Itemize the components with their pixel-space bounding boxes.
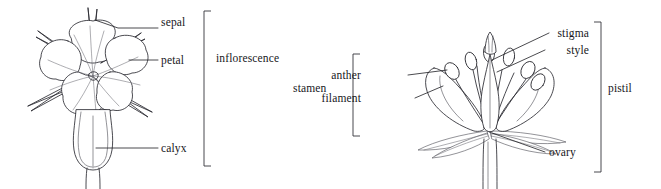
left-flower-drawing: [28, 8, 152, 189]
label-anther: anther: [286, 69, 361, 81]
label-petal: petal: [161, 54, 184, 66]
left-petals: [40, 20, 148, 114]
label-inflorescence: inflorescence: [216, 52, 279, 64]
label-calyx: calyx: [161, 142, 187, 154]
inflorescence-bracket: [204, 11, 211, 166]
label-sepal: sepal: [161, 16, 185, 28]
label-ovary: ovary: [549, 146, 576, 158]
label-stigma: stigma: [520, 27, 589, 39]
label-filament: filament: [286, 92, 361, 104]
flower-anatomy-figure: sepal petal calyx inflorescence stamen a…: [0, 0, 661, 189]
right-pistil: [481, 32, 499, 132]
right-stem: [483, 139, 497, 189]
label-pistil: pistil: [608, 82, 632, 94]
pistil-bracket: [594, 22, 601, 172]
left-calyx: [73, 110, 112, 189]
right-sepals: [418, 131, 566, 158]
label-style: style: [520, 44, 589, 56]
